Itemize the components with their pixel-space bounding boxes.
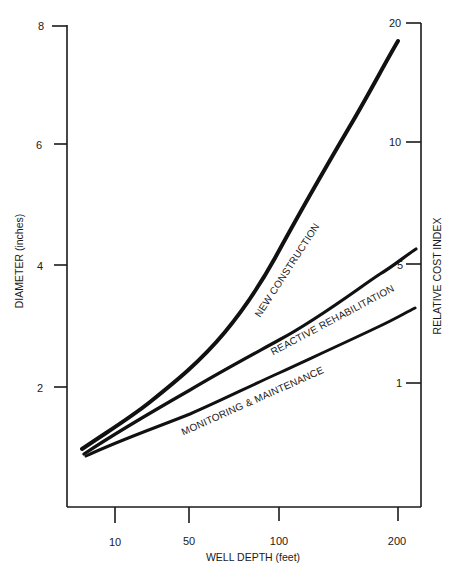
x-axis-title: WELL DEPTH (feet) [206,551,300,563]
y2-axis-title: RELATIVE COST INDEX [431,218,443,335]
y-tick-label-2: 2 [37,382,43,394]
x-tick-label-200: 200 [388,535,406,547]
label-monitoring-maintenance: MONITORING & MAINTENANCE [180,364,326,437]
y2-ticks: 20 10 5 1 [389,17,421,389]
series-new-construction [82,41,398,449]
y2-tick-label-10: 10 [389,136,401,148]
x-tick-label-50: 50 [183,535,195,547]
y-axis-title: DIAMETER (inches) [13,214,25,309]
y2-tick-label-20: 20 [389,17,401,29]
chart: 8 6 4 2 20 10 5 1 10 50 100 200 WELL DEP… [0,0,453,580]
x-ticks: 10 50 100 200 [109,507,406,548]
y-tick-label-4: 4 [37,260,43,272]
label-reactive-rehabilitation: REACTIVE REHABILITATION [269,283,396,358]
y-ticks: 8 6 4 2 [36,20,67,394]
x-tick-label-100: 100 [270,535,288,547]
y-tick-label-6: 6 [36,139,42,151]
y2-tick-label-1: 1 [396,377,402,389]
x-tick-label-10: 10 [109,536,121,548]
series-reactive-rehabilitation [84,249,416,454]
series-monitoring-maintenance [86,308,415,456]
y-tick-label-8: 8 [38,20,44,32]
series-lines [82,41,416,456]
